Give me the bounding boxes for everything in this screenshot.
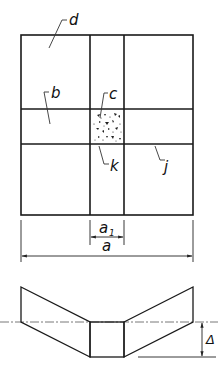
leader-line-k: [99, 146, 109, 164]
label-k: k: [110, 157, 120, 175]
plan-view: d b c k j a 1 a: [21, 11, 193, 262]
label-d: d: [69, 11, 79, 29]
label-j: j: [162, 158, 169, 176]
label-c: c: [109, 85, 118, 103]
leader-line-d: [49, 20, 67, 48]
leader-line-c: [100, 93, 108, 118]
label-a1: a: [99, 219, 108, 237]
center-stipple-pattern: [93, 113, 121, 142]
label-a: a: [102, 237, 111, 255]
leader-line-b: [44, 92, 50, 124]
center-block: [90, 322, 124, 357]
dimension-delta: Δ: [202, 323, 215, 356]
section-view: Δ: [0, 287, 218, 357]
label-delta: Δ: [205, 332, 215, 347]
label-b: b: [51, 84, 61, 102]
technical-drawing: d b c k j a 1 a: [0, 0, 221, 371]
